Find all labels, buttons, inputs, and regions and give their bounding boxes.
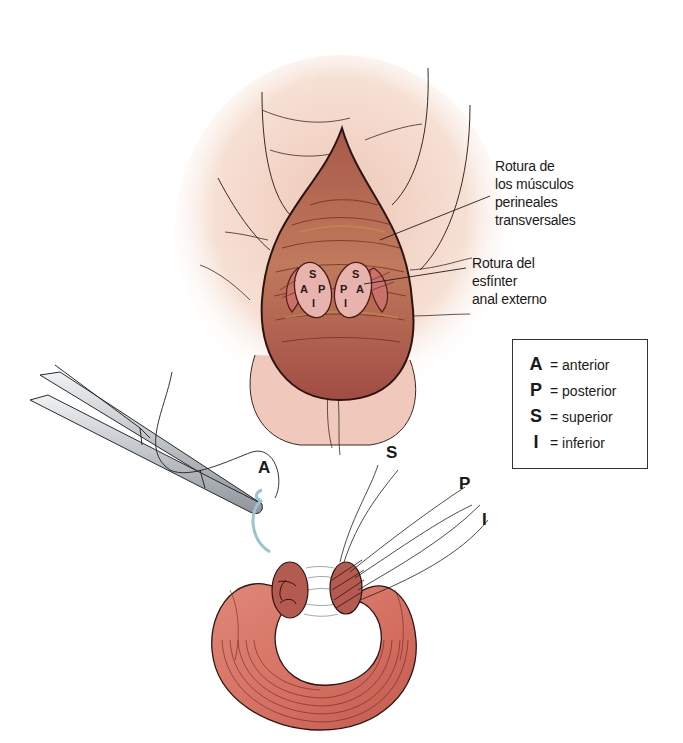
callout-perineal-line-3: perineales — [495, 193, 576, 211]
legend-value-superior: = superior — [550, 409, 613, 425]
legend-item-inferior: I = inferior — [527, 432, 605, 453]
right-end-label-top: S — [352, 268, 359, 280]
sphincter-left-end — [272, 562, 308, 618]
legend-item-posterior: P = posterior — [527, 380, 617, 401]
callout-sphincter-line-2: esfínter — [472, 272, 547, 290]
legend-key-s: S — [527, 406, 545, 427]
legend-key-p: P — [527, 380, 545, 401]
legend-key-i: I — [527, 432, 545, 453]
callout-perineal-line-2: los músculos — [495, 175, 576, 193]
right-end-label-left: P — [340, 283, 347, 295]
legend-value-posterior: = posterior — [550, 383, 617, 399]
needle-holder-illustration — [30, 365, 279, 552]
left-end-label-right: P — [318, 283, 325, 295]
callout-perineal-line-1: Rotura de — [495, 157, 576, 175]
right-end-label-right: A — [356, 283, 364, 295]
suture-label-posterior: P — [459, 474, 470, 494]
suture-label-superior: S — [386, 443, 397, 463]
left-end-label-bottom: I — [312, 297, 315, 309]
callout-perineal-muscles: Rotura de los músculos perineales transv… — [495, 157, 576, 229]
callout-anal-sphincter: Rotura del esfínter anal externo — [472, 254, 547, 308]
legend-box: A = anterior P = posterior S = superior … — [512, 339, 648, 469]
legend-item-superior: S = superior — [527, 406, 613, 427]
suture-label-anterior: A — [258, 458, 270, 478]
left-end-label-left: A — [300, 283, 308, 295]
legend-value-anterior: = anterior — [550, 357, 610, 373]
suture-label-inferior: I — [482, 510, 487, 530]
callout-sphincter-line-1: Rotura del — [472, 254, 547, 272]
legend-value-inferior: = inferior — [550, 435, 605, 451]
callout-sphincter-line-3: anal externo — [472, 290, 547, 308]
perineum-illustration — [175, 55, 505, 455]
legend-item-anterior: A = anterior — [527, 354, 610, 375]
legend-key-a: A — [527, 354, 545, 375]
left-end-label-top: S — [309, 268, 316, 280]
right-end-label-bottom: I — [344, 297, 347, 309]
callout-perineal-line-4: transversales — [495, 211, 576, 229]
